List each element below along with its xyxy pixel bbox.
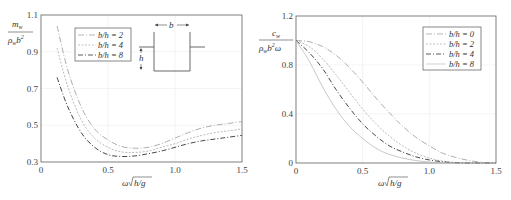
svg-text:1.0: 1.0 [424, 166, 436, 176]
legend-entry: b/h = 0 [449, 29, 475, 39]
svg-text:h/g: h/g [390, 178, 402, 188]
svg-text:1.2: 1.2 [282, 11, 293, 21]
legend-entry: b/h = 4 [98, 40, 124, 50]
legend-entry: b/h = 2 [449, 39, 475, 49]
left-chart: 00.51.01.50.30.50.70.91.1 mw ρwb2 ω h/g … [7, 10, 248, 188]
right-chart: 00.51.01.500.40.81.2 cw ρwb2ω ω h/g b/h … [258, 11, 502, 188]
series-line [57, 48, 242, 152]
legend-entry: b/h = 8 [98, 50, 124, 60]
svg-text:1.5: 1.5 [236, 165, 248, 175]
svg-text:cw: cw [272, 28, 280, 39]
right-x-axis-label: ω h/g [378, 177, 408, 188]
svg-text:b: b [169, 20, 174, 30]
left-legend: b/h = 2 b/h = 4 b/h = 8 [75, 28, 131, 61]
left-x-axis-label: ω h/g [122, 177, 152, 188]
svg-text:h/g: h/g [134, 178, 146, 188]
figure: 00.51.01.50.30.50.70.91.1 mw ρwb2 ω h/g … [0, 0, 511, 200]
svg-text:h: h [139, 53, 144, 63]
svg-text:ρwb2ω: ρwb2ω [258, 42, 281, 54]
svg-text:0.3: 0.3 [27, 157, 39, 167]
svg-text:ω: ω [378, 178, 384, 188]
svg-text:0.5: 0.5 [102, 165, 114, 175]
left-grid [41, 15, 242, 162]
svg-text:0: 0 [294, 166, 299, 176]
svg-text:0.7: 0.7 [27, 84, 39, 94]
legend-entry: b/h = 8 [449, 59, 475, 69]
left-y-axis-label: mw ρwb2 [7, 19, 33, 46]
svg-text:1.1: 1.1 [27, 10, 38, 20]
svg-text:0.4: 0.4 [282, 109, 294, 119]
legend-entry: b/h = 2 [98, 30, 124, 40]
section-inset-diagram: b h [139, 20, 205, 71]
svg-text:1.0: 1.0 [169, 165, 181, 175]
svg-text:0.8: 0.8 [282, 60, 294, 70]
right-legend: b/h = 0 b/h = 2 b/h = 4 b/h = 8 [423, 27, 481, 70]
svg-text:0.5: 0.5 [27, 120, 39, 130]
svg-text:0.5: 0.5 [357, 166, 369, 176]
legend-entry: b/h = 4 [449, 49, 475, 59]
svg-text:ω: ω [122, 178, 128, 188]
svg-text:1.5: 1.5 [490, 166, 502, 176]
series-line [57, 77, 242, 156]
svg-text:ρwb2: ρwb2 [7, 34, 24, 46]
right-y-axis-label: cw ρwb2ω [258, 28, 293, 54]
left-tick-labels: 00.51.01.50.30.50.70.91.1 [27, 10, 248, 175]
svg-text:0: 0 [39, 165, 44, 175]
svg-text:0.9: 0.9 [27, 47, 39, 57]
svg-text:0: 0 [289, 158, 294, 168]
svg-text:mw: mw [12, 19, 23, 30]
